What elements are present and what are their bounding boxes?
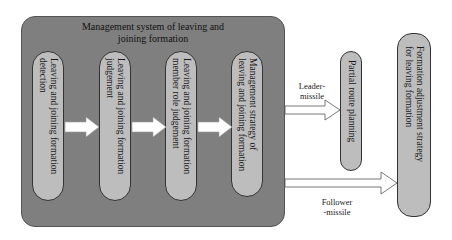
partial-route-planning-label: Partial route planning bbox=[346, 52, 357, 170]
follower-arrow-icon bbox=[285, 170, 398, 196]
partial-route-planning: Partial route planning bbox=[340, 51, 362, 171]
follower-missile-label: Follower -missile bbox=[312, 197, 362, 217]
system-title-line2: joining formation bbox=[21, 33, 285, 45]
module-management-strategy-label: Management strategy of leaving and joini… bbox=[236, 52, 258, 196]
follower-label-line2: -missile bbox=[312, 207, 362, 217]
leader-missile-label: Leader- missile bbox=[290, 81, 334, 101]
module-detection-label: Leaving and joining formation detection bbox=[37, 52, 59, 200]
module-judgement-label: Leaving and joining formation judgement bbox=[104, 52, 126, 200]
arrow-right-icon bbox=[197, 116, 233, 138]
module-role-judgement: Leaving and joining formation member rol… bbox=[165, 51, 197, 201]
system-title-line1: Management system of leaving and bbox=[21, 21, 285, 33]
formation-adjustment-strategy: Formation adjustment strategy for leavin… bbox=[397, 33, 431, 217]
formation-adjustment-strategy-label: Formation adjustment strategy for leavin… bbox=[403, 34, 425, 216]
system-title: Management system of leaving and joining… bbox=[21, 21, 285, 45]
leader-label-line1: Leader- bbox=[290, 81, 334, 91]
arrow-right-icon bbox=[131, 116, 167, 138]
module-management-strategy: Management strategy of leaving and joini… bbox=[231, 51, 263, 197]
module-judgement: Leaving and joining formation judgement bbox=[99, 51, 131, 201]
module-detection: Leaving and joining formation detection bbox=[32, 51, 64, 201]
follower-label-line1: Follower bbox=[312, 197, 362, 207]
arrow-right-icon bbox=[64, 116, 100, 138]
module-role-judgement-label: Leaving and joining formation member rol… bbox=[170, 52, 192, 200]
leader-arrow-icon bbox=[285, 98, 341, 122]
leader-label-line2: missile bbox=[290, 91, 334, 101]
